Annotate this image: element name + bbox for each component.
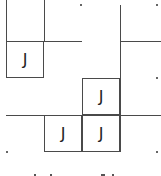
- tile-glyph: J: [23, 50, 28, 69]
- tile-cell[interactable]: J: [82, 115, 120, 152]
- clipped-caption-fragment: [50, 174, 52, 176]
- tile-glyph: J: [61, 124, 66, 143]
- tile-cell[interactable]: J: [44, 115, 82, 152]
- grid-dot: [156, 77, 158, 79]
- puzzle-board: J J J J: [0, 0, 161, 176]
- grid-line: [120, 5, 121, 152]
- grid-dot: [6, 151, 8, 153]
- tile-glyph: J: [99, 87, 104, 106]
- grid-line: [120, 41, 161, 42]
- grid-dot: [156, 151, 158, 153]
- grid-line: [44, 0, 45, 41]
- grid-line: [6, 0, 7, 41]
- clipped-caption-fragment: [112, 174, 114, 176]
- grid-dot: [156, 4, 158, 6]
- clipped-caption-fragment: [34, 174, 36, 176]
- tile-cell[interactable]: J: [82, 78, 120, 115]
- grid-dot: [80, 4, 82, 6]
- tile-glyph: J: [99, 124, 104, 143]
- clipped-caption-fragment: [101, 174, 105, 176]
- tile-cell[interactable]: J: [6, 41, 44, 78]
